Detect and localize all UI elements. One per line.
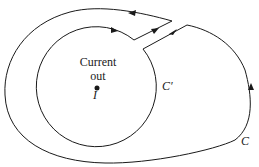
outer-curve-label: C (241, 134, 249, 149)
current-label: Current (76, 55, 120, 69)
connector-right (143, 25, 187, 49)
inner-curve-label: C′ (162, 79, 173, 94)
outer-loop-c (5, 9, 250, 163)
arrow-connector-right-icon (169, 29, 177, 35)
out-label: out (76, 69, 120, 83)
current-symbol-label: I (93, 88, 97, 103)
amperian-loop-diagram (0, 0, 259, 167)
